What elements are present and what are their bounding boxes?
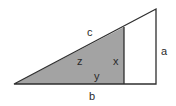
label-b: b [89, 90, 95, 102]
label-c: c [87, 26, 93, 38]
label-z: z [77, 55, 83, 67]
label-a: a [161, 45, 168, 57]
label-y: y [94, 70, 100, 82]
label-x: x [113, 55, 119, 67]
triangle-diagram: c a b z x y [0, 0, 176, 106]
